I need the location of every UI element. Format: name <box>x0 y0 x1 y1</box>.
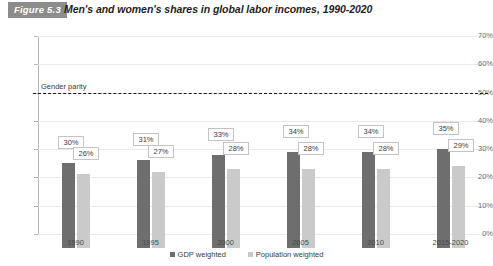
bar-1995-population <box>152 172 165 248</box>
gender-parity-line <box>33 93 488 94</box>
bar-value-label: 28% <box>298 142 324 155</box>
x-tick-label: 1995 <box>113 238 188 247</box>
bar-value-label: 33% <box>208 128 234 141</box>
figure-title: Men's and women's shares in global labor… <box>64 2 372 17</box>
bar-value-label: 27% <box>148 145 174 158</box>
x-tick-label: 2005 <box>263 238 338 247</box>
bar-chart: 0%10%20%30%40%50%60%70% 30%26%31%27%33%2… <box>0 22 493 266</box>
bar-2000-gdp <box>212 155 225 248</box>
bar-2010-gdp <box>362 152 375 248</box>
plot-area: 30%26%31%27%33%28%34%28%34%28%35%29% <box>38 36 488 248</box>
x-tick-label: 1990 <box>38 238 113 247</box>
bar-value-label: 35% <box>433 122 459 135</box>
legend-label: GDP weighted <box>178 250 226 259</box>
bar-2010-population <box>377 169 390 248</box>
bar-value-label: 34% <box>283 125 309 138</box>
bar-value-label: 34% <box>358 125 384 138</box>
legend-label: Population weighted <box>256 250 324 259</box>
figure-number-badge: Figure 5.3 <box>8 2 67 18</box>
bar-value-label: 28% <box>223 142 249 155</box>
bar-1995-gdp <box>137 160 150 248</box>
legend-item-gdp-weighted: GDP weighted <box>170 250 226 260</box>
bar-2015-2020-population <box>452 166 465 248</box>
bar-2005-population <box>302 169 315 248</box>
bar-1990-population <box>77 174 90 248</box>
bar-2005-gdp <box>287 152 300 248</box>
x-tick-label: 2010 <box>338 238 413 247</box>
x-tick-label: 2015-2020 <box>413 238 488 247</box>
bar-value-label: 29% <box>448 139 474 152</box>
chart-legend: GDP weightedPopulation weighted <box>0 250 493 260</box>
legend-swatch-icon <box>248 252 253 257</box>
bar-1990-gdp <box>62 163 75 248</box>
bar-2015-2020-gdp <box>437 149 450 248</box>
bar-value-label: 28% <box>373 142 399 155</box>
bar-value-label: 26% <box>73 147 99 160</box>
legend-swatch-icon <box>170 252 175 257</box>
gender-parity-label: Gender parity <box>41 82 86 91</box>
legend-item-population-weighted: Population weighted <box>248 250 324 260</box>
bar-2000-population <box>227 169 240 248</box>
figure-header: Figure 5.3 Men's and women's shares in g… <box>0 0 493 22</box>
x-tick-label: 2000 <box>188 238 263 247</box>
